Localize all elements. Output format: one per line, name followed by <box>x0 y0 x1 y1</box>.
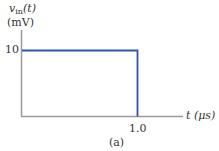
y-axis-unit: (mV) <box>7 17 34 29</box>
figure-caption: (a) <box>109 137 124 149</box>
x-tick-1: 1.0 <box>129 123 147 135</box>
x-axis-label: t (μs) <box>186 110 215 122</box>
signal-pulse <box>22 51 138 117</box>
y-tick-10: 10 <box>5 44 19 56</box>
